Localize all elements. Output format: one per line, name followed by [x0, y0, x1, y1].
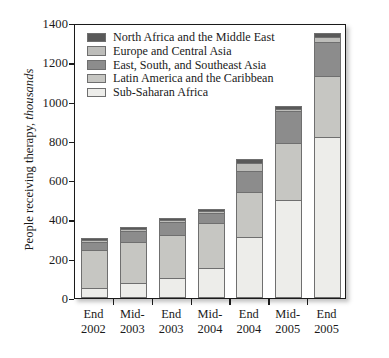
bar-segment[interactable]	[275, 200, 302, 298]
bar-segment[interactable]	[81, 242, 108, 250]
x-axis-tick-label: Mid-2003	[120, 307, 145, 337]
bar-segment[interactable]	[275, 143, 302, 200]
legend-item[interactable]: East, South, and Southeast Asia	[87, 59, 317, 72]
x-axis-tick-label: Mid-2004	[198, 307, 223, 337]
bar-segment[interactable]	[81, 238, 108, 240]
x-axis-tick-label: End2004	[236, 307, 261, 337]
bar-segment[interactable]	[314, 37, 341, 42]
legend-label: Sub-Saharan Africa	[113, 86, 208, 99]
legend-label: Latin America and the Caribbean	[113, 72, 274, 85]
bar-segment[interactable]	[236, 171, 263, 192]
chart-figure: People receiving therapy, thousands 0200…	[0, 0, 389, 358]
x-axis-tick-mark	[191, 299, 192, 305]
y-axis-tick-label: 1400	[43, 17, 68, 32]
bar-segment[interactable]	[120, 231, 147, 242]
bar-segment[interactable]	[236, 192, 263, 237]
x-axis-tick-label-line: End	[81, 307, 106, 322]
x-axis-tick-label-line: End	[314, 307, 339, 322]
x-axis-tick-label-line: End	[159, 307, 184, 322]
legend-swatch-icon	[87, 33, 106, 43]
y-axis-tick-label: 0	[62, 292, 68, 307]
bar-segment[interactable]	[236, 237, 263, 298]
bar-segment[interactable]	[275, 111, 302, 142]
bar-segment[interactable]	[236, 163, 263, 171]
x-axis-tick-label-line: 2005	[275, 322, 300, 337]
legend-swatch-icon	[87, 60, 106, 70]
x-axis-tick-label-line: 2004	[198, 322, 223, 337]
x-axis-tick-label-line: 2003	[159, 322, 184, 337]
bar-segment[interactable]	[198, 209, 225, 211]
bar-segment[interactable]	[120, 229, 147, 231]
bar-segment[interactable]	[236, 159, 263, 163]
bar-segment[interactable]	[314, 42, 341, 76]
x-axis-tick-label: End2005	[314, 307, 339, 337]
x-axis-tick-labels: End2002Mid-2003End2003Mid-2004End2004Mid…	[74, 307, 346, 351]
bar-segment[interactable]	[81, 288, 108, 298]
legend-item[interactable]: Sub-Saharan Africa	[87, 86, 317, 99]
x-axis-tick-label-line: 2005	[314, 322, 339, 337]
x-axis-tick-label-line: Mid-	[275, 307, 300, 322]
x-axis-tick-mark	[268, 299, 269, 305]
y-axis-tick-label: 600	[49, 174, 68, 189]
y-axis-tick-labels: 0200400600800100012001400	[18, 0, 68, 358]
legend-item[interactable]: Latin America and the Caribbean	[87, 72, 317, 85]
bar-segment[interactable]	[198, 223, 225, 267]
x-axis-tick-mark	[152, 299, 153, 305]
x-axis-tick-label: End2002	[81, 307, 106, 337]
legend-label: North Africa and the Middle East	[113, 31, 275, 44]
legend-label: Europe and Central Asia	[113, 45, 232, 58]
bar-segment[interactable]	[275, 109, 302, 112]
bar-segment[interactable]	[159, 222, 186, 235]
bar-segment[interactable]	[198, 211, 225, 213]
x-axis-tick-marks	[74, 299, 346, 305]
bar-7[interactable]	[314, 25, 341, 298]
bar-segment[interactable]	[198, 268, 225, 298]
y-axis-tick-label: 1000	[43, 95, 68, 110]
bar-segment[interactable]	[159, 235, 186, 278]
y-axis-tick-label: 200	[49, 252, 68, 267]
legend-item[interactable]: Europe and Central Asia	[87, 45, 317, 58]
bar-segment[interactable]	[81, 240, 108, 242]
bar-segment[interactable]	[275, 106, 302, 109]
bar-segment[interactable]	[314, 33, 341, 37]
bar-segment[interactable]	[314, 76, 341, 137]
y-axis-tick-label: 800	[49, 134, 68, 149]
x-axis-tick-mark	[307, 299, 308, 305]
legend-swatch-icon	[87, 88, 106, 98]
chart-legend: North Africa and the Middle EastEurope a…	[87, 31, 317, 100]
x-axis-tick-label-line: Mid-	[120, 307, 145, 322]
legend-label: East, South, and Southeast Asia	[113, 59, 266, 72]
x-axis-tick-mark	[229, 299, 230, 305]
bar-segment[interactable]	[198, 213, 225, 224]
bar-segment[interactable]	[81, 250, 108, 289]
legend-swatch-icon	[87, 74, 106, 84]
bar-segment[interactable]	[120, 227, 147, 229]
bar-segment[interactable]	[159, 278, 186, 298]
legend-item[interactable]: North Africa and the Middle East	[87, 31, 317, 44]
bar-segment[interactable]	[314, 137, 341, 298]
bar-segment[interactable]	[159, 220, 186, 222]
x-axis-tick-label: Mid-2005	[275, 307, 300, 337]
bar-segment[interactable]	[120, 242, 147, 283]
x-axis-tick-label-line: Mid-	[198, 307, 223, 322]
x-axis-tick-label-line: 2004	[236, 322, 261, 337]
x-axis-tick-mark	[113, 299, 114, 305]
x-axis-tick-label: End2003	[159, 307, 184, 337]
bar-segment[interactable]	[159, 218, 186, 220]
legend-swatch-icon	[87, 46, 106, 56]
bar-segment[interactable]	[120, 283, 147, 298]
y-axis-tick-label: 400	[49, 213, 68, 228]
x-axis-tick-label-line: End	[236, 307, 261, 322]
x-axis-tick-label-line: 2002	[81, 322, 106, 337]
y-axis-tick-label: 1200	[43, 56, 68, 71]
x-axis-tick-label-line: 2003	[120, 322, 145, 337]
